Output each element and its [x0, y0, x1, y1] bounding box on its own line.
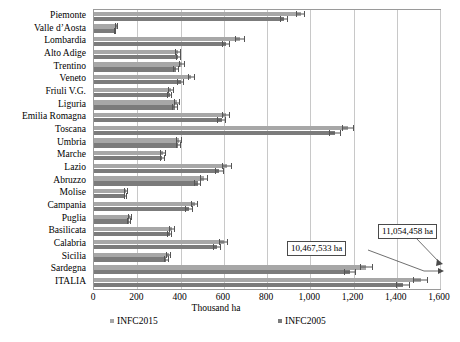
error-bar: [124, 194, 127, 198]
legend-item-infc2005[interactable]: INFC2005: [278, 316, 326, 326]
callout-infc2005-total: 10,467,533 ha: [287, 241, 346, 256]
error-bar-cap: [167, 231, 168, 237]
error-bar-cap: [165, 150, 166, 156]
error-bar-cap: [117, 23, 118, 29]
bar-infc2005: [94, 257, 166, 261]
error-bar-cap: [235, 36, 236, 42]
error-bar-cap: [185, 206, 186, 212]
category-label: Lazio: [64, 162, 86, 172]
x-tick-label: 600: [216, 292, 230, 302]
category-label: Alto Adige: [44, 48, 86, 58]
bar-infc2015: [94, 113, 226, 117]
error-bar: [296, 12, 305, 16]
error-bar: [185, 207, 192, 211]
error-bar: [280, 17, 288, 21]
error-bar-cap: [173, 87, 174, 93]
category-label: Trentino: [54, 61, 86, 71]
x-tick-label: 1,200: [342, 292, 363, 302]
error-bar: [235, 37, 245, 41]
error-bar-cap: [127, 218, 128, 224]
category-label: Calabria: [54, 238, 86, 248]
category-label: Campania: [47, 200, 86, 210]
error-bar-cap: [194, 74, 195, 80]
error-bar-cap: [174, 226, 175, 232]
x-tick-label: 1,400: [385, 292, 406, 302]
error-bar-cap: [304, 11, 305, 17]
bar-infc2015: [94, 62, 182, 66]
bar-infc2015: [94, 88, 171, 92]
error-bar-cap: [229, 41, 230, 47]
error-bar-cap: [200, 180, 201, 186]
error-bar-cap: [176, 54, 177, 60]
error-bar-cap: [164, 155, 165, 161]
error-bar-cap: [127, 188, 128, 194]
category-label: Piemonte: [50, 10, 86, 20]
error-bar-cap: [126, 193, 127, 199]
error-bar: [329, 131, 340, 135]
bar-infc2005: [94, 118, 222, 122]
category-axis-labels: PiemonteValle d’AostaLombardiaAlto Adige…: [0, 9, 90, 290]
category-label: Lombardia: [44, 35, 86, 45]
legend-item-infc2015[interactable]: INFC2015: [110, 316, 158, 326]
error-bar-cap: [329, 130, 330, 136]
bar-infc2005: [94, 143, 178, 147]
error-bar-cap: [227, 239, 228, 245]
bar-infc2005: [94, 169, 219, 173]
x-tick-label: 1,000: [299, 292, 320, 302]
category-label: Marche: [57, 149, 86, 159]
error-bar: [167, 232, 173, 236]
error-bar: [167, 93, 173, 97]
error-bar: [200, 176, 208, 180]
error-bar-cap: [188, 74, 189, 80]
error-bar: [396, 283, 410, 287]
bar-infc2005: [94, 194, 125, 198]
error-bar-cap: [215, 168, 216, 174]
error-bar-cap: [124, 193, 125, 199]
error-bar-cap: [220, 244, 221, 250]
error-bar-cap: [115, 28, 116, 34]
error-bar-cap: [222, 41, 223, 47]
category-label: Abruzzo: [53, 175, 86, 185]
bar-infc2005: [94, 232, 170, 236]
category-label: Sardegna: [51, 263, 86, 273]
bar-infc2015: [94, 126, 348, 130]
error-bar-cap: [181, 137, 182, 143]
error-bar-cap: [229, 112, 230, 118]
x-tick-label: 200: [129, 292, 143, 302]
error-bar-cap: [413, 277, 414, 283]
error-bar-cap: [340, 130, 341, 136]
error-bar: [177, 80, 183, 84]
bar-infc2005: [94, 219, 129, 223]
error-bar-cap: [344, 269, 345, 275]
bar-infc2005: [94, 29, 115, 33]
bar-infc2005: [94, 42, 226, 46]
error-bar: [194, 181, 201, 185]
error-bar-cap: [355, 269, 356, 275]
error-bar: [360, 265, 373, 269]
error-bar: [217, 118, 225, 122]
legend-swatch-icon: [278, 319, 282, 323]
bar-infc2015: [94, 151, 163, 155]
error-bar-cap: [194, 180, 195, 186]
error-bar: [222, 42, 231, 46]
category-label: Friuli V.G.: [45, 86, 86, 96]
bar-infc2005: [94, 283, 403, 287]
bar-infc2005: [94, 131, 335, 135]
bar-infc2015: [94, 37, 240, 41]
category-label: ITALIA: [55, 276, 86, 286]
error-bar-cap: [176, 142, 177, 148]
error-bar-cap: [180, 54, 181, 60]
x-tick-label: 400: [172, 292, 186, 302]
error-bar-cap: [167, 92, 168, 98]
horizontal-bar-chart: PiemonteValle d’AostaLombardiaAlto Adige…: [0, 0, 460, 342]
category-label: Emilia Romagna: [22, 111, 86, 121]
error-bar-cap: [217, 117, 218, 123]
error-bar: [215, 169, 224, 173]
error-bar: [188, 75, 195, 79]
error-bar-line: [396, 284, 410, 285]
bar-infc2005: [94, 80, 181, 84]
bar-infc2005: [94, 67, 176, 71]
bar-infc2005: [94, 93, 170, 97]
error-bar-cap: [184, 61, 185, 67]
error-bar-cap: [353, 125, 354, 131]
